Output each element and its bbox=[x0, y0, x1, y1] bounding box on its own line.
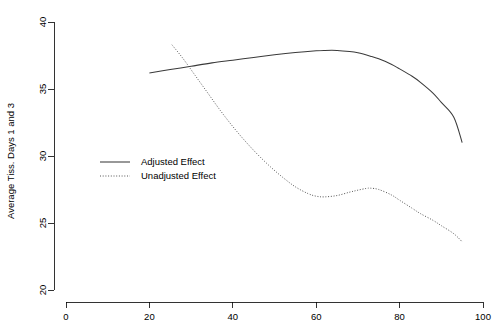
x-tick-label: 40 bbox=[228, 311, 239, 322]
x-tick-label: 100 bbox=[475, 311, 491, 322]
x-tick-label: 60 bbox=[311, 311, 322, 322]
y-axis-title: Average Tiss. Days 1 and 3 bbox=[5, 103, 16, 219]
y-tick-label: 25 bbox=[37, 218, 48, 229]
legend-label-2: Unadjusted Effect bbox=[141, 170, 216, 181]
y-tick-label: 40 bbox=[37, 17, 48, 28]
series-lines bbox=[149, 45, 462, 242]
line-chart: 2025303540 020406080100 Adjusted EffectU… bbox=[0, 0, 502, 322]
y-tick-label: 35 bbox=[37, 84, 48, 95]
chart-legend: Adjusted EffectUnadjusted Effect bbox=[100, 156, 216, 181]
y-tick-label: 20 bbox=[37, 285, 48, 296]
y-axis: 2025303540 bbox=[37, 17, 54, 296]
y-tick-label: 30 bbox=[37, 151, 48, 162]
x-tick-label: 20 bbox=[144, 311, 155, 322]
legend-label-1: Adjusted Effect bbox=[141, 156, 205, 167]
series-line-2 bbox=[172, 45, 462, 242]
x-axis: 020406080100 bbox=[63, 302, 491, 322]
x-tick-label: 0 bbox=[63, 311, 68, 322]
series-line-1 bbox=[149, 50, 462, 142]
chart-container: 2025303540 020406080100 Adjusted EffectU… bbox=[0, 0, 502, 322]
x-tick-label: 80 bbox=[394, 311, 405, 322]
